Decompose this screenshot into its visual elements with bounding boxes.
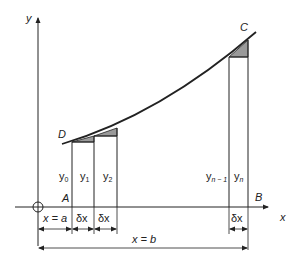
curve-DC	[62, 32, 256, 144]
point-C-label: C	[240, 21, 248, 33]
ordinate-yn-1-label: yn − 1	[206, 170, 227, 183]
dim-dx2-label: δx	[98, 212, 110, 224]
point-D-label: D	[58, 128, 66, 140]
dim-dx1-label: δx	[76, 212, 88, 224]
x-axis-label: x	[279, 211, 286, 223]
trapezoidal-area-diagram: y x D C A B y0 y1 y2 yn − 1 yn x = a δx …	[0, 0, 300, 267]
y-axis-label: y	[25, 12, 33, 24]
shaded-strip-error-regions	[72, 40, 248, 142]
dim-x-eq-b-label: x = b	[131, 233, 156, 245]
point-A-label: A	[61, 192, 69, 204]
ordinate-y1-label: y1	[80, 170, 90, 183]
point-B-label: B	[255, 191, 262, 203]
dim-x-eq-a-label: x = a	[42, 212, 67, 224]
ordinate-y0-label: y0	[59, 170, 69, 183]
ordinate-y2-label: y2	[103, 170, 113, 183]
dim-dx-last-label: δx	[231, 212, 243, 224]
ordinate-yn-label: yn	[234, 170, 244, 183]
